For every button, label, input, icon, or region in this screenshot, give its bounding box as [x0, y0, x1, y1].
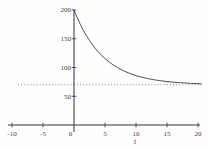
x-tick-label: -5: [40, 130, 46, 138]
x-tick-label: 20: [195, 130, 203, 138]
plot-canvas: -10-50510152050100150200t: [0, 0, 208, 148]
x-tick-label: 5: [103, 130, 107, 138]
scanned-figure: -10-50510152050100150200t: [0, 0, 208, 148]
x-tick-label: 0: [69, 130, 73, 138]
y-tick-label: 100: [61, 64, 72, 72]
plot-background: [0, 0, 208, 148]
x-tick-label: 15: [164, 130, 172, 138]
y-tick-label: 200: [61, 6, 72, 14]
y-tick-label: 150: [61, 35, 72, 43]
x-tick-label: -10: [7, 130, 17, 138]
y-tick-label: 50: [64, 93, 72, 101]
